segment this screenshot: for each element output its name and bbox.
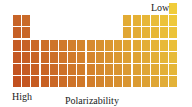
element-cell bbox=[87, 64, 95, 75]
element-cell bbox=[151, 40, 159, 51]
element-cell bbox=[105, 40, 113, 51]
element-cell bbox=[142, 27, 150, 38]
element-cell bbox=[151, 76, 159, 87]
element-cell bbox=[31, 52, 39, 63]
element-cell bbox=[105, 76, 113, 87]
element-cell bbox=[160, 52, 168, 63]
element-cell bbox=[142, 76, 150, 87]
element-cell bbox=[13, 76, 21, 87]
element-cell bbox=[133, 76, 141, 87]
element-cell bbox=[133, 15, 141, 26]
element-cell bbox=[68, 40, 76, 51]
element-cell bbox=[59, 52, 67, 63]
element-cell bbox=[142, 15, 150, 26]
element-cell bbox=[50, 76, 58, 87]
element-cell bbox=[22, 52, 30, 63]
element-cell bbox=[133, 64, 141, 75]
element-cell bbox=[114, 64, 122, 75]
element-cell bbox=[77, 40, 85, 51]
axis-title: Polarizability bbox=[65, 96, 119, 106]
element-cell bbox=[50, 64, 58, 75]
element-cell bbox=[114, 40, 122, 51]
element-cell bbox=[87, 52, 95, 63]
element-cell bbox=[22, 27, 30, 38]
element-cell bbox=[142, 64, 150, 75]
element-cell bbox=[123, 52, 131, 63]
element-cell bbox=[169, 76, 177, 87]
element-cell bbox=[133, 27, 141, 38]
element-cell bbox=[31, 76, 39, 87]
element-cell bbox=[151, 15, 159, 26]
element-cell bbox=[114, 52, 122, 63]
element-cell bbox=[68, 52, 76, 63]
legend-high-label: High bbox=[12, 92, 32, 102]
element-cell bbox=[77, 76, 85, 87]
element-cell bbox=[41, 40, 49, 51]
element-cell bbox=[50, 52, 58, 63]
element-cell bbox=[160, 76, 168, 87]
element-cell bbox=[123, 64, 131, 75]
element-cell bbox=[169, 3, 177, 14]
element-cell bbox=[142, 40, 150, 51]
element-cell bbox=[169, 52, 177, 63]
element-cell bbox=[169, 64, 177, 75]
element-cell bbox=[13, 15, 21, 26]
element-cell bbox=[96, 76, 104, 87]
element-cell bbox=[169, 40, 177, 51]
element-cell bbox=[160, 64, 168, 75]
element-cell bbox=[22, 40, 30, 51]
element-cell bbox=[151, 64, 159, 75]
element-cell bbox=[133, 40, 141, 51]
element-cell bbox=[77, 52, 85, 63]
element-cell bbox=[151, 52, 159, 63]
element-cell bbox=[22, 64, 30, 75]
element-cell bbox=[31, 64, 39, 75]
element-cell bbox=[31, 40, 39, 51]
element-cell bbox=[59, 76, 67, 87]
legend-low-label: Low bbox=[151, 3, 169, 13]
element-cell bbox=[123, 15, 131, 26]
element-cell bbox=[123, 40, 131, 51]
element-cell bbox=[114, 76, 122, 87]
element-cell bbox=[13, 52, 21, 63]
element-cell bbox=[13, 64, 21, 75]
element-cell bbox=[59, 64, 67, 75]
element-cell bbox=[50, 40, 58, 51]
element-cell bbox=[160, 27, 168, 38]
element-cell bbox=[169, 27, 177, 38]
element-cell bbox=[77, 64, 85, 75]
element-cell bbox=[123, 27, 131, 38]
element-cell bbox=[22, 76, 30, 87]
element-cell bbox=[68, 64, 76, 75]
element-cell bbox=[105, 52, 113, 63]
element-cell bbox=[59, 40, 67, 51]
element-cell bbox=[87, 40, 95, 51]
element-cell bbox=[151, 27, 159, 38]
element-cell bbox=[41, 64, 49, 75]
element-cell bbox=[22, 15, 30, 26]
element-cell bbox=[41, 76, 49, 87]
element-cell bbox=[13, 40, 21, 51]
element-cell bbox=[68, 76, 76, 87]
element-cell bbox=[160, 40, 168, 51]
element-cell bbox=[96, 64, 104, 75]
element-cell bbox=[123, 76, 131, 87]
element-cell bbox=[87, 76, 95, 87]
element-cell bbox=[41, 52, 49, 63]
element-cell bbox=[169, 15, 177, 26]
element-cell bbox=[96, 52, 104, 63]
element-cell bbox=[160, 15, 168, 26]
element-cell bbox=[96, 40, 104, 51]
element-cell bbox=[13, 27, 21, 38]
element-cell bbox=[142, 52, 150, 63]
element-cell bbox=[105, 64, 113, 75]
element-cell bbox=[133, 52, 141, 63]
